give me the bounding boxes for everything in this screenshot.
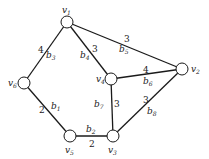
edge-weight-b5: 3 [124,34,130,44]
node-label-v6: v6 [8,78,17,89]
node-v1 [61,16,73,28]
edge-weight-b4: 3 [92,44,98,54]
node-v5 [64,130,76,142]
edge-label-b1: b1 [51,101,61,112]
node-v3 [107,130,119,142]
node-label-v1: v1 [62,5,71,16]
edge-weight-b6: 4 [143,65,149,75]
node-label-v3: v3 [108,145,117,156]
node-v6 [18,77,30,89]
edge-label-b2: b2 [86,124,96,135]
node-v2 [176,63,188,75]
node-label-v2: v2 [191,64,200,75]
node-label-v5: v5 [65,145,74,156]
edge-weight-b1: 2 [39,105,45,115]
edge-b7 [111,79,113,136]
edge-weight-b7: 3 [114,99,120,109]
node-label-v4: v4 [96,74,105,85]
edge-label-b3: b3 [46,50,56,61]
edge-weight-b8: 3 [143,95,149,105]
edge-label-b4: b4 [80,50,90,61]
graph-diagram: v1 v2 v3 v4 v5 v6 b1 b2 b3 b4 b5 b6 b7 b… [0,0,209,159]
edge-label-b5: b5 [119,44,129,55]
edge-b1 [24,83,70,136]
edge-label-b7: b7 [94,99,104,110]
edge-label-b8: b8 [147,106,157,117]
node-v4 [105,73,117,85]
edge-label-b6: b6 [143,76,153,87]
edge-weight-b3: 4 [38,45,44,55]
edge-weight-b2: 2 [89,139,95,149]
